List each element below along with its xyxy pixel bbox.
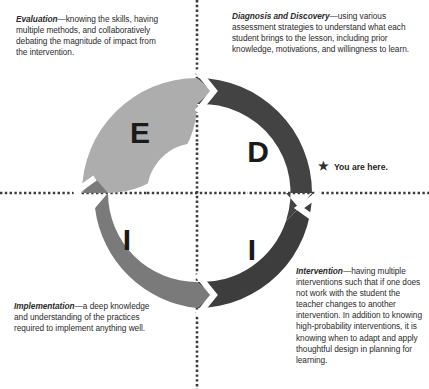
note-intervention: Intervention—having multiple interventio… [296, 266, 424, 366]
segment-letter-diagnosis: D [247, 135, 269, 168]
note-evaluation: Evaluation—knowing the skills, having mu… [16, 14, 168, 58]
segment-letter-evaluation: E [130, 116, 150, 149]
star-icon: ★ [318, 161, 329, 172]
note-implementation: Implementation—a deep knowledge and unde… [14, 301, 164, 334]
you-are-here-label: You are here. [334, 162, 388, 172]
note-intervention-body: —having multiple interventions such that… [296, 266, 422, 365]
note-diagnosis-lead: Diagnosis and Discovery [232, 11, 330, 21]
note-implementation-lead: Implementation [14, 301, 75, 311]
note-evaluation-lead: Evaluation [16, 14, 57, 24]
separator-left-lower [74, 193, 95, 208]
segment-letter-intervention: I [248, 233, 256, 266]
note-intervention-lead: Intervention [296, 266, 343, 276]
note-diagnosis: Diagnosis and Discovery—using various as… [232, 11, 412, 55]
diagram-page: E D I I Evaluation—knowing the skills, h… [0, 0, 429, 389]
you-are-here-marker: ★ You are here. [318, 161, 388, 172]
segment-letter-implementation: I [123, 223, 131, 256]
